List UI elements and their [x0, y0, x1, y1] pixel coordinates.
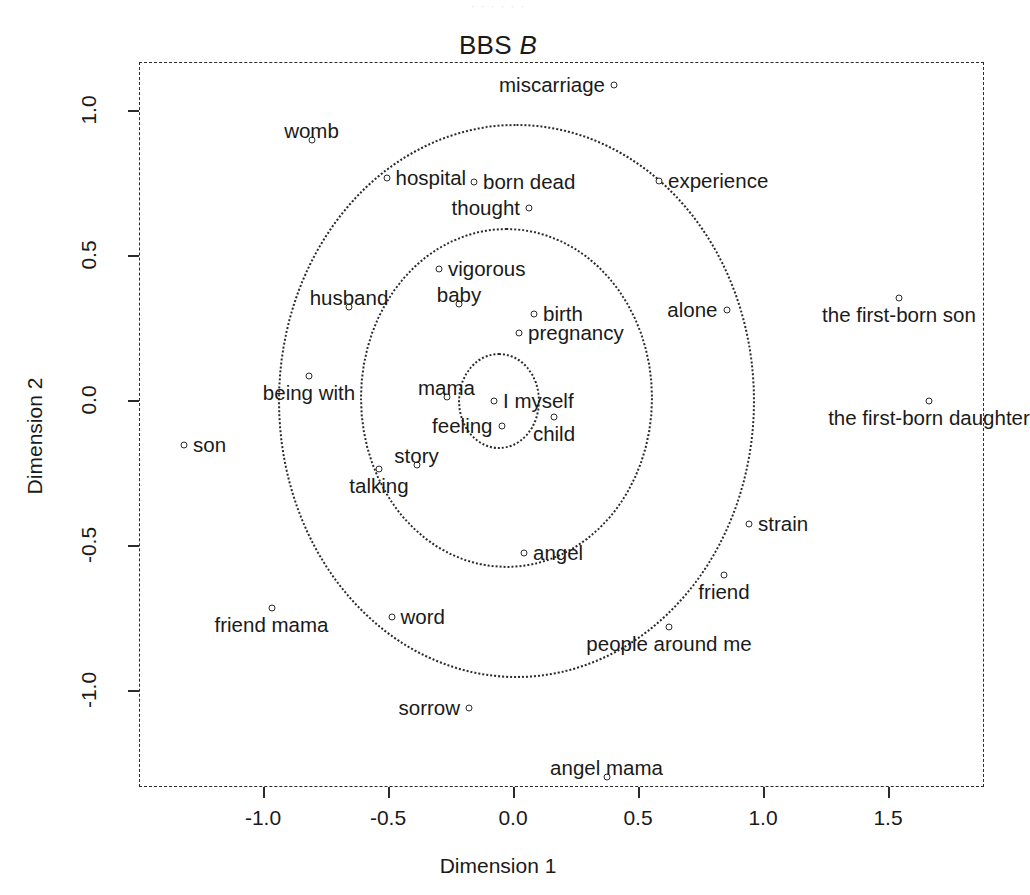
chart-title-italic: B: [519, 30, 537, 60]
point-label: miscarriage: [499, 75, 605, 96]
data-point: [436, 266, 443, 273]
point-label: talking: [349, 476, 408, 497]
data-point: [926, 398, 933, 405]
point-label: pregnancy: [528, 323, 624, 344]
x-axis-title: Dimension 1: [0, 854, 996, 878]
y-tick-label: 0.0: [77, 372, 101, 428]
y-tick-mark: [128, 255, 139, 257]
data-point: [896, 295, 903, 302]
point-label: friend: [698, 582, 749, 603]
point-label: being with: [263, 383, 355, 404]
point-label: thought: [452, 198, 520, 219]
point-label: story: [394, 446, 438, 467]
point-label: feeling: [432, 415, 492, 436]
y-tick-label: -1.0: [77, 662, 101, 718]
data-point: [666, 624, 673, 631]
point-label: the first-born daughter: [828, 408, 1030, 429]
data-point: [376, 466, 383, 473]
x-tick-mark: [888, 787, 890, 798]
point-label: word: [401, 607, 445, 628]
data-point: [516, 329, 523, 336]
data-point: [611, 81, 618, 88]
data-point: [521, 550, 528, 557]
point-label: sorrow: [398, 698, 460, 719]
data-point: [526, 205, 533, 212]
x-tick-mark: [513, 787, 515, 798]
point-label: angel: [533, 543, 583, 564]
y-tick-mark: [128, 690, 139, 692]
x-tick-label: 0.5: [623, 806, 652, 830]
x-tick-label: 1.0: [748, 806, 777, 830]
point-label: people around me: [586, 634, 751, 655]
x-tick-mark: [388, 787, 390, 798]
data-point: [491, 398, 498, 405]
data-point: [721, 572, 728, 579]
point-label: strain: [758, 514, 808, 535]
data-point: [551, 413, 558, 420]
x-tick-mark: [763, 787, 765, 798]
point-label: womb: [284, 121, 339, 142]
point-label: angel mama: [550, 757, 663, 778]
y-tick-mark: [128, 110, 139, 112]
point-label: husband: [310, 288, 389, 309]
x-tick-label: 0.0: [498, 806, 527, 830]
point-label: son: [193, 434, 226, 455]
y-tick-label: 1.0: [77, 82, 101, 138]
data-point: [388, 614, 395, 621]
data-point: [498, 422, 505, 429]
chart-title: BBS B: [0, 30, 996, 61]
data-point: [466, 705, 473, 712]
x-tick-label: -1.0: [245, 806, 281, 830]
data-point: [306, 373, 313, 380]
ghost-top-text: · · · · · ·: [0, 0, 996, 13]
chart-title-main: BBS: [459, 30, 519, 60]
data-point: [746, 521, 753, 528]
y-tick-mark: [128, 545, 139, 547]
point-label: mama: [418, 377, 475, 398]
point-label: child: [533, 424, 575, 445]
point-label: alone: [667, 299, 717, 320]
point-label: born dead: [483, 172, 575, 193]
y-axis-title: Dimension 2: [23, 346, 47, 526]
point-label: baby: [437, 285, 481, 306]
point-label: vigorous: [448, 259, 526, 280]
point-label: the first-born son: [822, 305, 976, 326]
y-tick-label: 0.5: [77, 227, 101, 283]
point-label: friend mama: [215, 615, 329, 636]
plot-frame: miscarriagewombhospitalborn deadexperien…: [139, 62, 984, 787]
x-tick-label: -0.5: [370, 806, 406, 830]
point-label: hospital: [396, 167, 467, 188]
data-point: [656, 177, 663, 184]
x-tick-mark: [263, 787, 265, 798]
data-point: [723, 306, 730, 313]
plot-area: miscarriagewombhospitalborn deadexperien…: [140, 63, 983, 786]
data-point: [181, 441, 188, 448]
data-point: [268, 605, 275, 612]
data-point: [531, 311, 538, 318]
data-point: [383, 174, 390, 181]
point-label: I myself: [503, 391, 574, 412]
point-label: experience: [668, 170, 768, 191]
y-tick-mark: [128, 400, 139, 402]
x-tick-mark: [638, 787, 640, 798]
data-point: [471, 179, 478, 186]
x-tick-label: 1.5: [873, 806, 902, 830]
y-tick-label: -0.5: [77, 517, 101, 573]
